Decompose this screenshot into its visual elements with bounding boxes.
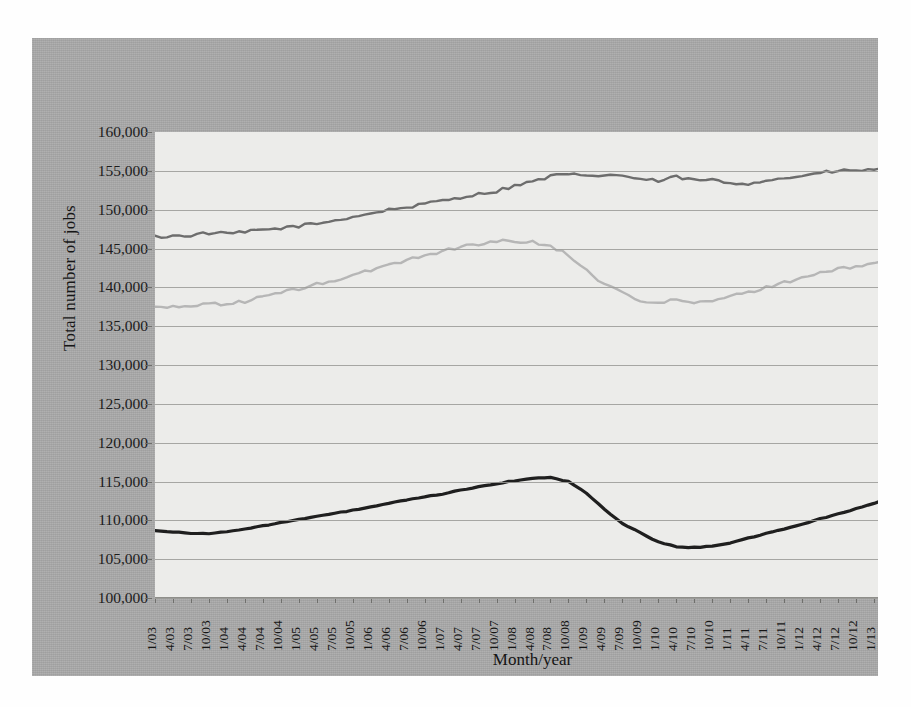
y-axis-tick-mark	[145, 482, 152, 483]
gridline	[155, 404, 878, 405]
y-axis-tick-mark	[145, 132, 152, 133]
page-canvas: Total number of jobs 160,000155,000150,0…	[0, 0, 911, 707]
x-axis-tick-mark	[335, 599, 336, 603]
x-axis-tick-label: 7/12	[827, 627, 843, 651]
x-axis-tick-mark	[281, 599, 282, 603]
x-axis-tick-label: 1/06	[360, 627, 376, 651]
x-axis-tick-mark	[353, 599, 354, 603]
x-axis-title: Month/year	[155, 650, 878, 670]
gridline	[155, 482, 878, 483]
x-axis-tick-label: 1/12	[791, 627, 807, 651]
y-axis-tick-mark	[145, 598, 152, 599]
y-axis-tick-mark	[145, 404, 152, 405]
y-axis-tick-label: 120,000	[98, 434, 148, 452]
x-axis-tick-label: 4/03	[162, 627, 178, 651]
y-axis-tick-label: 105,000	[98, 550, 148, 568]
chart-panel: Total number of jobs 160,000155,000150,0…	[32, 38, 878, 676]
x-axis-tick-mark	[676, 599, 677, 603]
x-axis-tick-mark	[766, 599, 767, 603]
x-axis-tick-mark	[748, 599, 749, 603]
series-line-u-s-labor-force	[155, 167, 878, 238]
x-axis-tick-mark	[479, 599, 480, 603]
y-axis-tick-mark	[145, 210, 152, 211]
x-axis-tick-label: 10/03	[198, 620, 214, 651]
x-axis-tick-mark	[874, 599, 875, 603]
y-axis-tick-mark	[145, 249, 152, 250]
x-axis-tick-label: 10/10	[701, 620, 717, 651]
y-axis-tick-label: 115,000	[98, 473, 148, 491]
x-axis-tick-label: 10/05	[342, 620, 358, 651]
y-axis-tick-label: 125,000	[98, 395, 148, 413]
x-axis-tick-label: 10/09	[629, 620, 645, 651]
x-axis-tick-label: 4/05	[306, 627, 322, 651]
x-axis-tick-label: 10/07	[486, 620, 502, 651]
x-axis-tick-mark	[155, 599, 156, 603]
x-axis-tick-mark	[838, 599, 839, 603]
y-axis-tick-label: 110,000	[98, 511, 148, 529]
plot-area	[155, 132, 878, 598]
x-axis-tick-mark	[425, 599, 426, 603]
x-axis-tick-mark	[497, 599, 498, 603]
y-axis-tick-label: 150,000	[98, 201, 148, 219]
y-axis-tick-label: 135,000	[98, 317, 148, 335]
x-axis-ticks: 1/034/037/0310/031/044/047/0410/041/054/…	[155, 599, 878, 651]
x-axis-tick-mark	[317, 599, 318, 603]
x-axis-tick-label: 4/10	[665, 627, 681, 651]
y-axis-tick-label: 130,000	[98, 356, 148, 374]
y-axis-tick-mark	[145, 171, 152, 172]
x-axis-tick-label: 1/07	[432, 627, 448, 651]
x-axis-tick-mark	[820, 599, 821, 603]
x-axis-tick-mark	[622, 599, 623, 603]
y-axis-tick-mark	[145, 520, 152, 521]
x-axis-tick-label: 1/08	[504, 627, 520, 651]
x-axis-tick-label: 7/11	[755, 628, 771, 652]
y-axis-tick-label: 100,000	[98, 589, 148, 607]
x-axis-tick-label: 7/09	[611, 627, 627, 651]
y-axis-tick-label: 140,000	[98, 278, 148, 296]
x-axis-tick-mark	[604, 599, 605, 603]
x-axis-tick-mark	[856, 599, 857, 603]
x-axis-tick-label: 4/04	[234, 627, 250, 651]
x-axis-tick-mark	[191, 599, 192, 603]
x-axis-tick-label: 1/09	[575, 627, 591, 651]
x-axis-tick-mark	[371, 599, 372, 603]
x-axis-tick-mark	[299, 599, 300, 603]
gridline	[155, 210, 878, 211]
x-axis-tick-mark	[389, 599, 390, 603]
x-axis-tick-label: 4/11	[737, 628, 753, 652]
x-axis-tick-label: 4/09	[593, 627, 609, 651]
x-axis-tick-mark	[533, 599, 534, 603]
gridline	[155, 520, 878, 521]
series-line-private-sector-u-s-jobs	[155, 477, 878, 547]
x-axis-tick-label: 1/11	[719, 628, 735, 652]
x-axis-tick-label: 1/03	[144, 627, 160, 651]
x-axis-tick-mark	[586, 599, 587, 603]
x-axis-tick-mark	[658, 599, 659, 603]
x-axis-tick-mark	[568, 599, 569, 603]
x-axis-tick-mark	[263, 599, 264, 603]
y-axis-tick-mark	[145, 287, 152, 288]
x-axis-tick-label: 10/06	[414, 620, 430, 651]
x-axis-tick-label: 10/12	[845, 620, 861, 651]
x-axis-tick-label: 7/10	[683, 627, 699, 651]
x-axis-tick-label: 1/04	[216, 627, 232, 651]
x-axis-tick-label: 7/05	[324, 627, 340, 651]
gridline	[155, 443, 878, 444]
x-axis-tick-label: 4/07	[450, 627, 466, 651]
x-axis-tick-label: 4/08	[522, 627, 538, 651]
gridline	[155, 559, 878, 560]
x-axis-tick-mark	[694, 599, 695, 603]
series-line-total-u-s-employment	[155, 240, 878, 308]
gridline	[155, 171, 878, 172]
x-axis-tick-label: 10/04	[270, 620, 286, 651]
x-axis-tick-mark	[550, 599, 551, 603]
x-axis-tick-label: 10/11	[773, 621, 789, 651]
x-axis-tick-label: 10/08	[557, 620, 573, 651]
x-axis-tick-label: 1/13	[863, 627, 878, 651]
x-axis-tick-label: 7/07	[468, 627, 484, 651]
y-axis-tick-mark	[145, 365, 152, 366]
x-axis-tick-label: 7/04	[252, 627, 268, 651]
x-axis-tick-label: 1/10	[647, 627, 663, 651]
y-axis-tick-label: 145,000	[98, 240, 148, 258]
y-axis-tick-mark	[145, 443, 152, 444]
